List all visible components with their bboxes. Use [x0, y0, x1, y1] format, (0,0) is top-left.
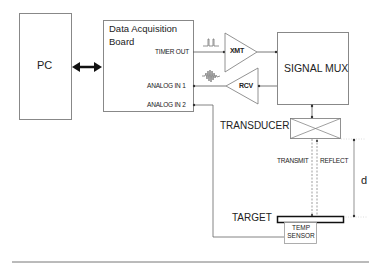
analog-in2-port-label: ANALOG IN 2 [147, 101, 186, 108]
temp-sensor-line2: SENSOR [285, 232, 317, 240]
rcv-label: RCV [239, 82, 253, 89]
transducer-box [291, 119, 341, 139]
double-arrow-icon [72, 62, 102, 72]
transmit-label: TRANSMIT [277, 157, 309, 164]
analog-in1-port-label: ANALOG IN 1 [147, 82, 186, 89]
signal-mux-label: SIGNAL MUX [284, 62, 348, 74]
temp-sensor-label: TEMP SENSOR [285, 224, 317, 240]
daq-title-line2: Board [109, 35, 134, 48]
timer-out-port-label: TIMER OUT [155, 48, 189, 55]
pc-label: PC [37, 59, 52, 71]
distance-label: d [361, 174, 367, 186]
echo-wavelet-icon [202, 70, 220, 82]
transducer-label: TRANSDUCER [220, 120, 289, 131]
temp-sensor-line1: TEMP [285, 224, 317, 232]
target-plate [278, 217, 344, 223]
xmt-label: XMT [230, 47, 244, 54]
block-diagram [0, 0, 382, 267]
pulse-train-icon [203, 39, 219, 46]
reflect-label: REFLECT [320, 157, 348, 164]
daq-title-line1: Data Acquisition [109, 22, 177, 35]
target-label: TARGET [232, 212, 272, 223]
